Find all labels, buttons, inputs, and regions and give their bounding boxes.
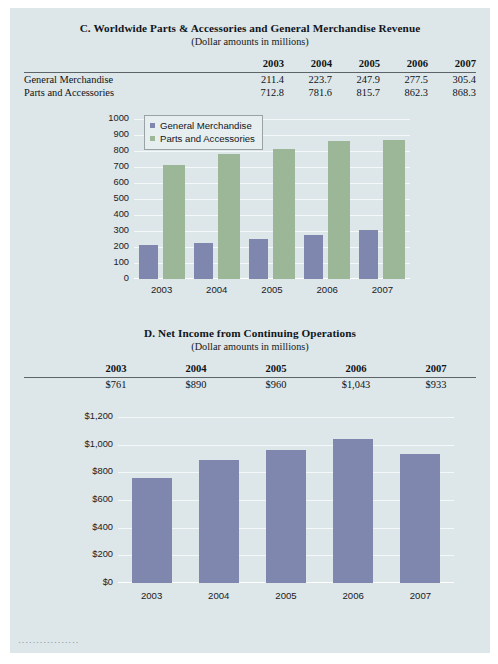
chart-c-bar <box>359 230 378 279</box>
chart-c-legend: General MerchandiseParts and Accessories <box>144 115 263 150</box>
table-c-col-2007: 2007 <box>428 56 476 73</box>
table-row: General Merchandise 211.4 223.7 247.9 27… <box>24 73 476 87</box>
chart-c-y-tick-label: 700 <box>99 161 129 171</box>
table-d-v4: $933 <box>396 378 476 392</box>
table-c-row1-v1: 781.6 <box>284 86 332 99</box>
table-row: Parts and Accessories 712.8 781.6 815.7 … <box>24 86 476 99</box>
table-c-col-2006: 2006 <box>380 56 428 73</box>
table-d-v2: $960 <box>236 378 316 392</box>
document-page: C. Worldwide Parts & Accessories and Gen… <box>10 8 490 653</box>
chart-d-x-tick-label: 2006 <box>320 590 387 601</box>
chart-c-y-tick-label: 300 <box>99 225 129 235</box>
chart-c-y-tick-label: 600 <box>99 177 129 187</box>
table-c-row0-v0: 211.4 <box>236 73 284 87</box>
footer-dot-marks: ················· <box>18 637 79 647</box>
table-c-row0-label: General Merchandise <box>24 73 236 87</box>
table-d-col-2005: 2005 <box>236 361 316 378</box>
table-d: 2003 2004 2005 2006 2007 $761 $890 $960 … <box>24 361 476 391</box>
table-c-row0-v3: 277.5 <box>380 73 428 87</box>
table-c-header-row: 2003 2004 2005 2006 2007 <box>24 56 476 73</box>
section-c-subtitle: (Dollar amounts in millions) <box>10 36 490 47</box>
table-d-col-2004: 2004 <box>156 361 236 378</box>
chart-c-x-tick-label: 2007 <box>355 284 410 295</box>
chart-c-bar <box>328 141 350 279</box>
table-d-col-2007: 2007 <box>396 361 476 378</box>
chart-c-x-tick-label: 2005 <box>244 284 299 295</box>
chart-c-x-tick-label: 2006 <box>300 284 355 295</box>
chart-c-gridline <box>134 151 410 152</box>
chart-c-bar-chart: 0100200300400500600700800900100020032004… <box>96 111 416 301</box>
chart-c-y-tick-label: 500 <box>99 193 129 203</box>
chart-c-y-tick-label: 200 <box>99 241 129 251</box>
table-c-col-2004: 2004 <box>284 56 332 73</box>
chart-d-gridline <box>118 445 454 446</box>
legend-item: Parts and Accessories <box>150 132 255 145</box>
chart-c-bar <box>139 245 158 279</box>
table-d-v1: $890 <box>156 378 236 392</box>
chart-d-y-tick-label: $1,000 <box>65 439 113 449</box>
chart-d-x-tick-label: 2003 <box>118 590 185 601</box>
section-d: D. Net Income from Continuing Operations… <box>10 327 490 391</box>
chart-d-gridline <box>118 417 454 418</box>
legend-swatch-icon <box>150 136 155 141</box>
table-c: 2003 2004 2005 2006 2007 General Merchan… <box>24 56 476 99</box>
table-d-col-2006: 2006 <box>316 361 396 378</box>
chart-c-x-tick-label: 2003 <box>134 284 189 295</box>
section-d-subtitle: (Dollar amounts in millions) <box>10 341 490 352</box>
legend-label: Parts and Accessories <box>160 132 255 145</box>
table-c-row1-v3: 862.3 <box>380 86 428 99</box>
table-c-row1-v2: 815.7 <box>332 86 380 99</box>
section-d-title: D. Net Income from Continuing Operations <box>10 327 490 339</box>
table-d-header-row: 2003 2004 2005 2006 2007 <box>24 361 476 378</box>
table-c-row0-v2: 247.9 <box>332 73 380 87</box>
table-c-corner <box>24 56 236 73</box>
table-c-row1-label: Parts and Accessories <box>24 86 236 99</box>
chart-c-y-tick-label: 900 <box>99 129 129 139</box>
table-d-v0: $761 <box>76 378 156 392</box>
legend-item: General Merchandise <box>150 119 255 132</box>
section-c-title: C. Worldwide Parts & Accessories and Gen… <box>10 22 490 34</box>
section-c: C. Worldwide Parts & Accessories and Gen… <box>10 8 490 99</box>
table-c-row1-v4: 868.3 <box>428 86 476 99</box>
chart-c-y-tick-label: 100 <box>99 257 129 267</box>
table-c-row1-v0: 712.8 <box>236 86 284 99</box>
chart-d-y-tick-label: $1,200 <box>65 411 113 421</box>
chart-d-x-tick-label: 2005 <box>252 590 319 601</box>
chart-c-y-tick-label: 400 <box>99 209 129 219</box>
chart-d-y-tick-label: $400 <box>65 522 113 532</box>
chart-c-bar <box>304 235 323 279</box>
chart-c-bar <box>383 140 405 279</box>
chart-d-y-tick-label: $600 <box>65 494 113 504</box>
chart-c-y-tick-label: 0 <box>99 273 129 283</box>
chart-c-bar <box>163 165 185 279</box>
legend-label: General Merchandise <box>160 119 252 132</box>
chart-c-y-tick-label: 1000 <box>99 113 129 123</box>
table-d-corner <box>24 361 76 378</box>
table-c-col-2005: 2005 <box>332 56 380 73</box>
chart-d-x-tick-label: 2004 <box>185 590 252 601</box>
table-row: $761 $890 $960 $1,043 $933 <box>24 378 476 392</box>
chart-d-bar-chart: $0$200$400$600$800$1,000$1,2002003200420… <box>62 407 462 607</box>
chart-d-y-tick-label: $0 <box>65 577 113 587</box>
chart-d-y-tick-label: $800 <box>65 466 113 476</box>
table-c-row0-v1: 223.7 <box>284 73 332 87</box>
chart-c-bar <box>273 149 295 280</box>
chart-d-y-tick-label: $200 <box>65 549 113 559</box>
table-c-col-2003: 2003 <box>236 56 284 73</box>
chart-c-y-tick-label: 800 <box>99 145 129 155</box>
table-d-v3: $1,043 <box>316 378 396 392</box>
chart-c-bar <box>194 243 213 279</box>
table-c-row0-v4: 305.4 <box>428 73 476 87</box>
chart-c-bar <box>249 239 268 279</box>
legend-swatch-icon <box>150 123 155 128</box>
chart-d-bar <box>400 454 440 583</box>
chart-d-bar <box>266 450 306 583</box>
chart-d-plot-area <box>118 417 454 583</box>
chart-d-bar <box>333 439 373 583</box>
table-d-col-2003: 2003 <box>76 361 156 378</box>
chart-d-bar <box>132 478 172 583</box>
chart-d-x-tick-label: 2007 <box>387 590 454 601</box>
chart-d-bar <box>199 460 239 583</box>
chart-c-x-tick-label: 2004 <box>189 284 244 295</box>
chart-c-bar <box>218 154 240 279</box>
